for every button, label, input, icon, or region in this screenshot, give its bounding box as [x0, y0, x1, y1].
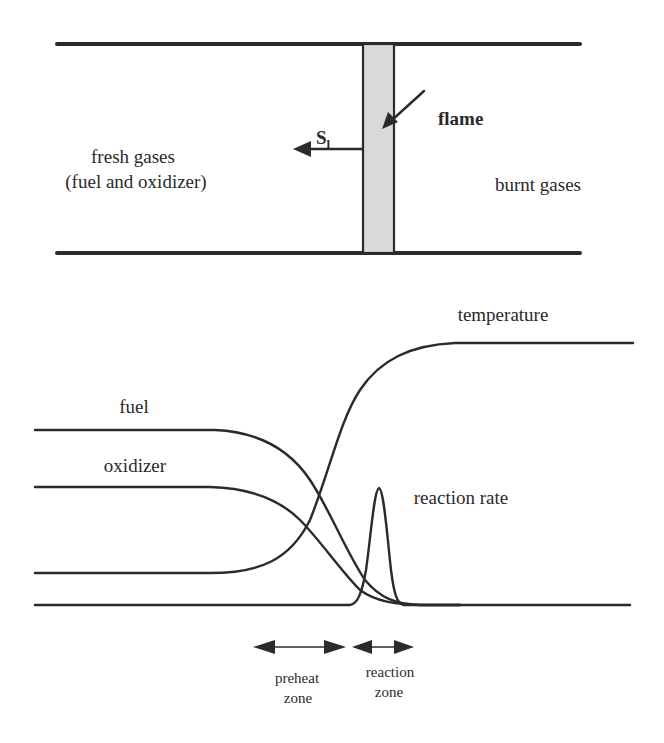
oxidizer-curve: [35, 487, 460, 605]
reaction-rate-label: reaction rate: [414, 487, 508, 508]
oxidizer-label: oxidizer: [104, 455, 167, 476]
reaction-zone-label-line2: zone: [375, 684, 404, 700]
fuel-label: fuel: [119, 396, 149, 417]
reaction-zone-arrow: [352, 640, 414, 654]
fresh-gases-label: fresh gases: [91, 146, 175, 167]
premixed-flame-diagram: fresh gases (fuel and oxidizer) burnt ga…: [0, 0, 664, 743]
burnt-gases-label: burnt gases: [495, 174, 581, 195]
fresh-gases-composition-label: (fuel and oxidizer): [65, 171, 206, 193]
reaction-rate-curve: [35, 488, 630, 605]
fuel-curve: [35, 430, 460, 605]
preheat-zone-label-line2: zone: [284, 690, 313, 706]
preheat-zone-label-line1: preheat: [275, 670, 320, 686]
reaction-zone-label-line1: reaction: [366, 664, 415, 680]
flame-front-band: [363, 44, 394, 253]
temperature-label: temperature: [458, 304, 549, 325]
preheat-zone-arrow: [253, 640, 346, 654]
flame-label: flame: [438, 108, 483, 129]
